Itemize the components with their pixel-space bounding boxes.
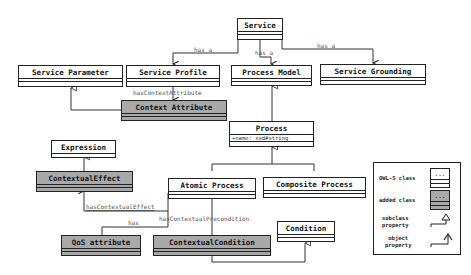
edge-label-has: has <box>128 219 139 226</box>
legend-subclass-property-label: subclass property <box>382 215 409 229</box>
class-service-parameter: Service Parameter <box>18 65 123 87</box>
class-title: Atomic Process <box>169 179 255 192</box>
class-condition: Condition <box>277 221 335 242</box>
legend-swatch-text: ... <box>431 169 449 180</box>
edge-label-has-a: has a <box>194 46 212 53</box>
class-title: ContextualEffect <box>37 172 132 185</box>
legend-added-class-label: added class <box>379 197 415 203</box>
class-atomic-process: Atomic Process <box>168 178 256 199</box>
edge-label-has-contextual-precondition: hasContextualPrecondition <box>159 215 249 222</box>
class-service-profile: Service Profile <box>126 65 220 87</box>
class-title: ContextualCondition <box>154 236 270 249</box>
legend-owl-s-class-swatch: ... <box>430 168 450 188</box>
class-title: Expression <box>52 141 115 154</box>
edge-label-has-contextual-effect: hasContextualEffect <box>86 203 155 210</box>
class-title: Process <box>230 122 313 135</box>
class-composite-process: Composite Process <box>263 177 366 198</box>
class-title: Condition <box>278 222 334 235</box>
legend: OWL-S class ... added class ... subclass… <box>373 162 461 255</box>
edge-label-has-a: has a <box>317 42 335 49</box>
class-title: QoS attribute <box>62 236 140 249</box>
class-process: Process +name: xsd#string <box>229 121 314 147</box>
subclass-arrow-icon <box>429 213 453 229</box>
class-service-grounding: Service Grounding <box>320 64 426 85</box>
class-title: Service <box>238 19 282 32</box>
class-title: Service Parameter <box>19 66 122 79</box>
legend-owl-s-class-label: OWL-S class <box>379 175 415 181</box>
class-attribute: +name: xsd#string <box>230 135 313 142</box>
legend-added-class-swatch: ... <box>430 190 450 210</box>
class-process-model: Process Model <box>231 65 312 86</box>
object-arrow-icon <box>429 233 453 249</box>
edge-label-has-context-attribute: hasContextAttribute <box>133 89 202 96</box>
legend-swatch-text: ... <box>431 191 449 202</box>
class-title: Context Attribute <box>122 101 226 114</box>
class-service: Service <box>237 18 283 40</box>
class-expression: Expression <box>51 140 116 158</box>
class-title: Process Model <box>232 66 311 79</box>
class-contextual-condition: ContextualCondition <box>153 235 271 256</box>
edge-label-has-a: has a <box>255 49 273 56</box>
class-title: Service Grounding <box>321 65 425 78</box>
legend-object-property-label: object property <box>385 235 412 249</box>
class-context-attribute: Context Attribute <box>121 100 227 121</box>
class-title: Service Profile <box>127 66 219 79</box>
class-contextual-effect: ContextualEffect <box>36 171 133 192</box>
class-qos-attribute: QoS attribute <box>61 235 141 256</box>
class-title: Composite Process <box>264 178 365 191</box>
